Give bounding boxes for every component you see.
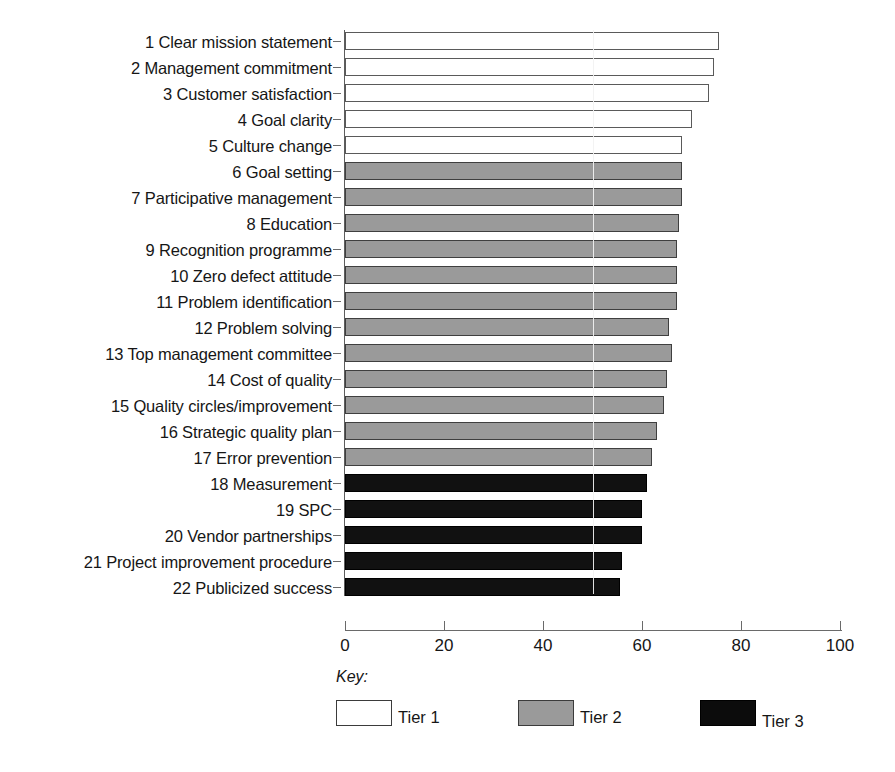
legend-swatch-tier-3 bbox=[700, 700, 756, 726]
category-tick bbox=[333, 275, 341, 276]
category-label: 5 Culture change bbox=[0, 137, 332, 155]
bar bbox=[345, 344, 672, 362]
legend-swatch-tier-2 bbox=[518, 700, 574, 726]
bar bbox=[345, 188, 682, 206]
bar bbox=[345, 162, 682, 180]
bar bbox=[345, 474, 647, 492]
category-label: 17 Error prevention bbox=[0, 449, 332, 467]
bar bbox=[345, 136, 682, 154]
plot-area: 1 Clear mission statement2 Management co… bbox=[0, 0, 895, 660]
category-label: 13 Top management committee bbox=[0, 345, 332, 363]
bar bbox=[345, 422, 657, 440]
category-tick bbox=[333, 561, 341, 562]
value-axis-tick bbox=[345, 621, 346, 630]
bar bbox=[345, 240, 677, 258]
category-tick bbox=[333, 431, 341, 432]
bar bbox=[345, 214, 679, 232]
category-tick bbox=[333, 457, 341, 458]
value-axis-line bbox=[345, 630, 842, 631]
legend-label-tier-2: Tier 2 bbox=[580, 708, 622, 727]
value-axis-tick bbox=[444, 621, 445, 630]
category-tick bbox=[333, 353, 341, 354]
category-label: 11 Problem identification bbox=[0, 293, 332, 311]
bar bbox=[345, 32, 719, 50]
category-label: 18 Measurement bbox=[0, 475, 332, 493]
value-axis-tick-label: 0 bbox=[315, 636, 375, 656]
category-tick bbox=[333, 483, 341, 484]
category-label: 22 Publicized success bbox=[0, 579, 332, 597]
category-label: 14 Cost of quality bbox=[0, 371, 332, 389]
value-axis-tick bbox=[840, 621, 841, 630]
reference-line-50 bbox=[593, 30, 595, 594]
bar bbox=[345, 552, 622, 570]
category-tick bbox=[333, 301, 341, 302]
legend-label-tier-3: Tier 3 bbox=[762, 712, 804, 731]
category-tick bbox=[333, 119, 341, 120]
value-axis-tick-label: 100 bbox=[810, 636, 870, 656]
bar-chart: 1 Clear mission statement2 Management co… bbox=[0, 0, 895, 772]
category-tick bbox=[333, 93, 341, 94]
bar bbox=[345, 396, 664, 414]
category-label: 3 Customer satisfaction bbox=[0, 85, 332, 103]
category-tick bbox=[333, 249, 341, 250]
category-tick bbox=[333, 223, 341, 224]
value-axis-tick-label: 20 bbox=[414, 636, 474, 656]
bar bbox=[345, 292, 677, 310]
value-axis-tick bbox=[543, 621, 544, 630]
category-label: 10 Zero defect attitude bbox=[0, 267, 332, 285]
bar bbox=[345, 318, 669, 336]
category-tick bbox=[333, 171, 341, 172]
category-tick bbox=[333, 379, 341, 380]
category-tick bbox=[333, 509, 341, 510]
bar bbox=[345, 526, 642, 544]
category-tick bbox=[333, 41, 341, 42]
category-label: 7 Participative management bbox=[0, 189, 332, 207]
bar bbox=[345, 578, 620, 596]
category-label: 12 Problem solving bbox=[0, 319, 332, 337]
category-tick bbox=[333, 535, 341, 536]
bar bbox=[345, 58, 714, 76]
bar bbox=[345, 448, 652, 466]
legend-title: Key: bbox=[336, 668, 368, 686]
category-label: 21 Project improvement procedure bbox=[0, 553, 332, 571]
value-axis-tick bbox=[642, 621, 643, 630]
legend-swatch-tier-1 bbox=[336, 700, 392, 726]
category-label: 19 SPC bbox=[0, 501, 332, 519]
category-tick bbox=[333, 197, 341, 198]
category-tick bbox=[333, 327, 341, 328]
category-tick bbox=[333, 405, 341, 406]
category-label: 1 Clear mission statement bbox=[0, 33, 332, 51]
category-label: 6 Goal setting bbox=[0, 163, 332, 181]
category-label: 16 Strategic quality plan bbox=[0, 423, 332, 441]
category-label: 4 Goal clarity bbox=[0, 111, 332, 129]
category-tick bbox=[333, 67, 341, 68]
category-tick bbox=[333, 145, 341, 146]
category-label: 9 Recognition programme bbox=[0, 241, 332, 259]
value-axis-tick-label: 40 bbox=[513, 636, 573, 656]
category-label: 15 Quality circles/improvement bbox=[0, 397, 332, 415]
bar bbox=[345, 500, 642, 518]
bar bbox=[345, 110, 692, 128]
legend-label-tier-1: Tier 1 bbox=[398, 708, 440, 727]
category-label: 20 Vendor partnerships bbox=[0, 527, 332, 545]
category-tick bbox=[333, 587, 341, 588]
bar bbox=[345, 84, 709, 102]
category-label: 8 Education bbox=[0, 215, 332, 233]
value-axis-tick-label: 60 bbox=[612, 636, 672, 656]
category-label: 2 Management commitment bbox=[0, 59, 332, 77]
bar bbox=[345, 266, 677, 284]
value-axis-tick-label: 80 bbox=[711, 636, 771, 656]
bar bbox=[345, 370, 667, 388]
value-axis-tick bbox=[741, 621, 742, 630]
